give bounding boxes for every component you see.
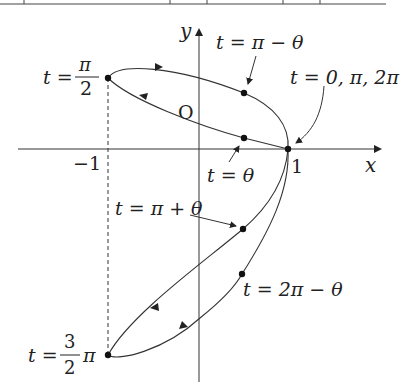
label-t-theta: t = θ bbox=[207, 164, 255, 186]
point-t-2pi-minus-theta bbox=[239, 271, 245, 277]
origin-label: O bbox=[178, 101, 194, 123]
pointer-theta bbox=[229, 146, 239, 162]
svg-text:2: 2 bbox=[80, 77, 92, 99]
parametric-curve-diagram: y x O −1 1 t = π − θ t = 0, π, 2π t = θ … bbox=[0, 0, 407, 385]
table-border-fragment bbox=[0, 0, 386, 4]
label-t-pi-over-2: t = π 2 bbox=[43, 54, 99, 99]
y-axis-label: y bbox=[179, 19, 192, 43]
svg-text:t =: t = bbox=[28, 344, 58, 366]
tick-1-label: 1 bbox=[291, 155, 303, 177]
point-t-3pi-over-2 bbox=[105, 352, 111, 358]
point-t-pi-over-2 bbox=[105, 75, 111, 81]
svg-text:π: π bbox=[78, 54, 92, 75]
point-t-pi-minus-theta bbox=[241, 90, 247, 96]
pointer-zero bbox=[296, 86, 324, 143]
svg-text:2: 2 bbox=[64, 357, 75, 378]
point-t-zero bbox=[285, 146, 291, 152]
x-axis-label: x bbox=[365, 153, 376, 177]
label-t-3pi-over-2: t = 3 2 π bbox=[28, 331, 96, 378]
label-t-pi-plus-theta: t = π + θ bbox=[115, 197, 203, 219]
svg-text:3: 3 bbox=[64, 331, 75, 352]
arrow-lower-outer bbox=[179, 321, 188, 329]
tick-neg1-label: −1 bbox=[73, 152, 101, 174]
label-t-pi-minus-theta: t = π − θ bbox=[216, 31, 304, 53]
point-t-pi-plus-theta bbox=[240, 226, 246, 232]
svg-text:t =: t = bbox=[43, 66, 73, 88]
label-t-2pi-minus-theta: t = 2π − θ bbox=[243, 278, 343, 300]
point-t-theta bbox=[241, 135, 247, 141]
svg-text:π: π bbox=[82, 344, 96, 366]
pointer-pi-minus-theta bbox=[248, 56, 256, 84]
label-t-zero: t = 0, π, 2π bbox=[290, 66, 399, 88]
